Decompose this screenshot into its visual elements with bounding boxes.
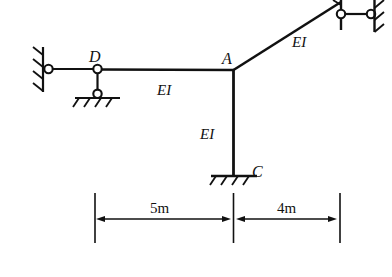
beam-segment-main <box>101 70 234 71</box>
left-wall-support <box>33 47 53 92</box>
node-d-ground-hatch-4 <box>106 98 112 107</box>
node-d-hinge-icon <box>93 65 101 73</box>
dim-arrowhead-left-end <box>222 216 231 222</box>
top-right-inner-hinge-icon <box>337 10 345 18</box>
inclined-ei-label: EI <box>291 34 307 50</box>
dimension-block: 5m 4m <box>95 193 340 243</box>
horizontal-beam-member <box>52 69 234 70</box>
top-right-support-assembly <box>333 0 384 32</box>
node-d-ground-hatch-2 <box>84 98 90 107</box>
dim-label-5m: 5m <box>150 200 170 216</box>
inclined-member <box>234 2 342 70</box>
node-d-ground-hatch-3 <box>95 98 101 107</box>
dim-label-4m: 4m <box>277 200 297 216</box>
support-c-hatch-2 <box>221 176 227 185</box>
left-pin-hinge-icon <box>44 65 52 73</box>
node-d-ground-hatch-1 <box>73 98 79 107</box>
node-a-label: A <box>221 50 232 67</box>
node-d-label: D <box>88 48 101 65</box>
support-c-fixed <box>210 176 257 185</box>
dim-arrow-left-span <box>96 216 231 222</box>
dim-arrowhead-left-start <box>96 216 105 222</box>
dim-arrowhead-right-start <box>236 216 245 222</box>
node-c-label: C <box>252 163 263 180</box>
support-c-hatch-1 <box>210 176 216 185</box>
top-right-outer-hatch-1 <box>375 0 385 8</box>
support-c-hatch-3 <box>232 176 238 185</box>
column-ei-label: EI <box>199 126 215 142</box>
structural-frame-figure: EI EI EI D A C 5m 4m <box>0 0 392 277</box>
diagram-canvas: EI EI EI D A C 5m 4m <box>0 0 392 277</box>
node-d-ground-hinge-icon <box>93 90 101 98</box>
left-wall-hatch-4 <box>33 83 43 91</box>
left-wall-hatch-2 <box>33 59 43 67</box>
dim-arrow-right-span <box>236 216 337 222</box>
left-wall-hatch-1 <box>33 47 43 55</box>
dim-arrowhead-right-end <box>328 216 337 222</box>
left-wall-hatch-3 <box>33 71 43 79</box>
beam-ei-label: EI <box>156 82 172 98</box>
support-c-hatch-4 <box>243 176 249 185</box>
inclined-line <box>234 2 342 70</box>
top-right-outer-hatch-3 <box>375 24 385 32</box>
node-d-support-assembly <box>73 65 120 107</box>
